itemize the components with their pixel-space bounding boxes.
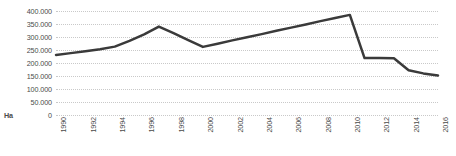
series-layer — [56, 11, 438, 115]
y-tick-label: 300.000 — [27, 33, 52, 42]
line-chart: 050.000100.000150.000200.000250.000300.0… — [0, 0, 456, 156]
y-tick-label: 250.000 — [27, 46, 52, 55]
x-tick-label: 1990 — [59, 117, 68, 133]
x-tick-label: 1996 — [147, 117, 156, 133]
y-tick-label: 150.000 — [27, 72, 52, 81]
x-tick-label: 1998 — [177, 117, 186, 133]
x-tick-label: 2014 — [412, 117, 421, 133]
y-axis-unit-label: Ha — [4, 111, 13, 120]
y-tick-label: 400.000 — [27, 7, 52, 16]
x-tick-label: 2008 — [324, 117, 333, 133]
y-tick-label: 200.000 — [27, 59, 52, 68]
y-tick-label: 350.000 — [27, 20, 52, 29]
x-tick-label: 1992 — [89, 117, 98, 133]
gridline — [56, 115, 438, 116]
x-tick-label: 2002 — [236, 117, 245, 133]
x-tick-label: 1994 — [118, 117, 127, 133]
x-tick-label: 2016 — [441, 117, 450, 133]
data-series-line — [56, 15, 438, 76]
y-tick-label: 100.000 — [27, 85, 52, 94]
x-tick-label: 2010 — [353, 117, 362, 133]
x-tick-label: 2006 — [294, 117, 303, 133]
y-tick-label: 50.000 — [31, 98, 52, 107]
y-axis: 050.000100.000150.000200.000250.000300.0… — [0, 11, 52, 115]
x-tick-label: 2012 — [382, 117, 391, 133]
y-tick-label: 0 — [48, 111, 52, 120]
x-axis: 1990199219941996199820002002200420062008… — [56, 117, 438, 156]
plot-area — [56, 11, 438, 115]
x-tick-label: 2004 — [265, 117, 274, 133]
x-tick-label: 2000 — [206, 117, 215, 133]
